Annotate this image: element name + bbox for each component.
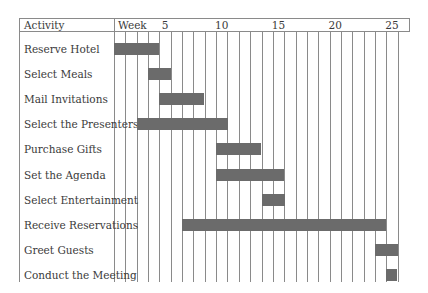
week-header: Week [118, 19, 147, 31]
task-label: Conduct the Meeting [24, 269, 137, 281]
week-tick-label: 20 [327, 19, 343, 31]
task-bar [262, 194, 285, 206]
task-label: Select the Presenters [24, 118, 138, 130]
label-divider [114, 18, 115, 282]
week-tick-label: 5 [157, 19, 173, 31]
week-gridline [250, 31, 251, 282]
right-border [409, 18, 410, 32]
week-gridline [352, 31, 353, 282]
task-bar [216, 143, 261, 155]
week-gridline [182, 31, 183, 282]
week-gridline [239, 31, 240, 282]
task-bar [182, 219, 386, 231]
task-bar [159, 93, 204, 105]
task-label: Receive Reservations [24, 219, 138, 231]
week-gridline [330, 31, 331, 282]
week-gridline [341, 31, 342, 282]
task-label: Mail Invitations [24, 93, 108, 105]
week-gridline [193, 31, 194, 282]
task-bar [216, 169, 284, 181]
week-gridline [137, 31, 138, 282]
week-gridline [205, 31, 206, 282]
week-gridline [227, 31, 228, 282]
task-bar [386, 269, 397, 281]
task-label: Select Meals [24, 68, 92, 80]
left-border [19, 18, 20, 282]
week-gridline [307, 31, 308, 282]
task-bar [375, 244, 398, 256]
task-label: Greet Guests [24, 244, 94, 256]
task-bar [148, 68, 171, 80]
week-tick-label: 10 [214, 19, 230, 31]
week-gridline [284, 31, 285, 282]
week-gridline [318, 31, 319, 282]
week-gridline [364, 31, 365, 282]
task-label: Reserve Hotel [24, 43, 100, 55]
task-label: Purchase Gifts [24, 143, 102, 155]
week-gridline [398, 31, 399, 282]
task-bar [114, 43, 159, 55]
task-bar [137, 118, 228, 130]
week-gridline [171, 31, 172, 282]
week-tick-label: 15 [271, 19, 287, 31]
week-gridline [262, 31, 263, 282]
week-gridline [125, 31, 126, 282]
week-gridline [273, 31, 274, 282]
week-gridline [296, 31, 297, 282]
gantt-chart: ActivityWeek510152025Reserve HotelSelect… [0, 0, 428, 293]
activity-header: Activity [24, 19, 64, 31]
task-label: Set the Agenda [24, 169, 106, 181]
week-tick-label: 25 [384, 19, 400, 31]
task-label: Select Entertainment [24, 194, 138, 206]
week-gridline [216, 31, 217, 282]
